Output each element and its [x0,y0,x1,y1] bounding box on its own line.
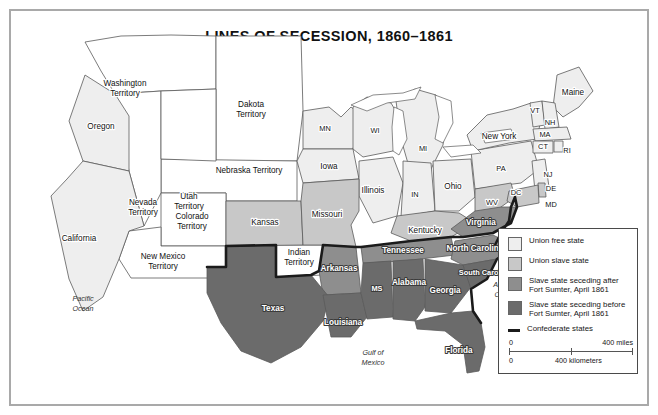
label-kansas: Kansas [251,218,278,227]
label-georgia: Georgia [430,286,461,295]
label-ohio: Ohio [444,182,462,191]
label-colorado-territory-line1: Colorado [175,212,209,221]
label-rhode-island: RI [563,146,570,155]
scale-bar-graphic [509,348,633,355]
label-vermont: VT [530,106,540,115]
scale-km-zero: 0 [509,356,513,365]
label-kentucky: Kentucky [408,226,443,235]
label-michigan: MI [419,144,427,153]
scale-km-row: 0 400 kilometers [509,356,633,365]
label-new-mexico-territory: New Mexico [141,252,186,261]
state-dakota-territory [216,36,303,161]
state-minnesota [303,107,361,149]
label-louisiana: Louisiana [324,318,363,327]
label-utah-territory-2: Territory [174,202,204,211]
label-dakota-territory-2: Territory [236,110,266,119]
legend-label-seceded-after-sumter: Slave state seceding after Fort Sumter, … [529,276,630,295]
label-nebraska-territory: Nebraska Territory [216,166,284,175]
label-colorado-territory-line2: Territory [177,222,207,231]
label-virginia: Virginia [466,218,496,227]
label-california: California [62,234,97,243]
label-pacific-ocean-2: Ocean [72,304,93,313]
scale-miles-row: 0 400 miles [509,338,633,347]
label-alabama: Alabama [392,278,427,287]
label-utah-territory: Utah [180,192,198,201]
state-florida [415,311,485,373]
map-legend: Union free state Union slave state Slave… [498,228,638,374]
legend-row-union-free-state: Union free state [508,236,630,251]
label-delaware: DE [546,184,556,193]
legend-label-union-slave-state: Union slave state [529,256,589,265]
label-new-jersey: NJ [543,170,552,179]
label-indian-territory-2: Territory [284,258,314,267]
label-maine: Maine [562,88,585,97]
label-nevada-territory: Nevada [129,198,158,207]
legend-label-confederate-states: Confederate states [527,324,593,333]
label-dakota-territory: Dakota [238,100,264,109]
state-louisiana [323,293,367,337]
label-washington-territory-2: Territory [110,89,140,98]
label-west-virginia: WV [486,198,498,207]
legend-row-seceded-after-sumter: Slave state seceding after Fort Sumter, … [508,276,630,295]
legend-label-seceded-before-sumter: Slave state seceding before Fort Sumter,… [529,300,630,319]
legend-label-union-free-state: Union free state [529,236,584,245]
map-figure: LINES OF SECESSION, 1860–1861 .st{stroke… [0,0,658,415]
state-delaware [538,183,546,197]
label-washington-territory: Washington [104,79,147,88]
legend-swatch-seceded-after-sumter [508,277,522,291]
label-gulf-of-mexico-1: Gulf of [362,348,384,357]
label-florida: Florida [445,346,473,355]
label-new-hampshire: NH [545,118,556,127]
label-indiana: IN [411,190,418,199]
state-rhode-island [554,141,563,152]
label-north-carolina: North Carolina [447,244,504,253]
legend-swatch-seceded-before-sumter [508,301,522,315]
label-district-of-columbia: DC [511,188,522,197]
label-connecticut: CT [538,142,548,151]
scale-miles-label: 400 miles [602,338,633,347]
label-massachusetts: MA [539,130,550,139]
label-illinois: Illinois [362,186,385,195]
label-minnesota: MN [319,124,331,133]
scale-km-label: 400 kilometers [555,356,602,365]
label-arkansas: Arkansas [321,264,358,273]
legend-row-union-slave-state: Union slave state [508,256,630,271]
state-utah-territory [161,89,216,161]
label-oregon: Oregon [87,122,115,131]
label-texas: Texas [262,304,285,313]
label-pennsylvania: PA [496,164,505,173]
label-missouri: Missouri [312,210,343,219]
label-new-mexico-territory-2: Territory [148,262,178,271]
label-pacific-ocean-1: Pacific [72,294,94,303]
label-new-york: New York [482,132,517,141]
scale-miles-zero: 0 [509,338,513,347]
label-maryland: MD [545,200,557,209]
label-gulf-of-mexico-2: Mexico [362,358,385,367]
legend-swatch-union-slave-state [508,257,522,271]
label-iowa: Iowa [320,162,338,171]
label-nevada-territory-2: Territory [128,208,158,217]
map-scale-bar: 0 400 miles 0 400 kilometers [508,338,630,365]
state-alabama [393,259,425,321]
label-tennessee: Tennessee [382,246,424,255]
legend-row-confederate-states: Confederate states [508,324,630,333]
legend-swatch-union-free-state [508,237,522,251]
legend-swatch-confederate-line [508,329,520,333]
legend-row-seceded-before-sumter: Slave state seceding before Fort Sumter,… [508,300,630,319]
label-mississippi: MS [371,284,382,293]
label-wisconsin: WI [370,126,379,135]
label-indian-territory: Indian [288,248,311,257]
